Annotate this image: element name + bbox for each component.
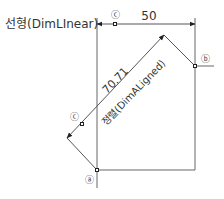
- point-b-marker: [194, 65, 197, 68]
- point-c-left-marker: [81, 123, 84, 126]
- aligned-extension-b: [164, 35, 195, 66]
- linear-value: 50: [141, 9, 156, 23]
- aligned-dimension: ⓒ 70.71 정렬(DimALigned): [67, 35, 195, 170]
- point-c-left-label: ⓒ: [70, 112, 79, 122]
- dimension-diagram: ⓒ 50 선형(DimLInear) ⓒ 70.71 정렬(DimALigned…: [0, 0, 224, 199]
- point-c-top-marker: [114, 23, 117, 26]
- point-b-label: ⓑ: [201, 54, 210, 64]
- linear-dimension: ⓒ 50 선형(DimLInear): [5, 9, 195, 31]
- linear-label: 선형(DimLInear): [5, 17, 98, 31]
- point-c-top-label: ⓒ: [111, 10, 120, 20]
- point-a-marker: [96, 169, 99, 172]
- point-a-label: ⓐ: [85, 175, 94, 185]
- aligned-extension-a: [67, 138, 97, 170]
